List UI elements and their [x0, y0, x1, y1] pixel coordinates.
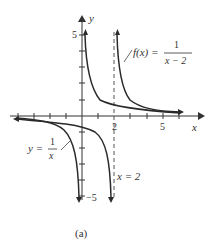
f-label-lhs: f(x) = [133, 46, 158, 59]
graph: 5 −5 2 5 x y f(x) = 1 x − 2 y = 1 x x = … [0, 0, 209, 240]
curve-y-left-branch [16, 118, 79, 197]
y-label-lhs: y = [27, 142, 43, 154]
x-tick-2: 2 [112, 121, 117, 132]
y-label-den: x [48, 150, 54, 161]
y-tick-minus5: −5 [86, 192, 97, 203]
x-tick-5: 5 [160, 121, 165, 132]
f-label-den: x − 2 [164, 55, 186, 66]
figure-caption: (a) [75, 227, 88, 240]
asymptote-label: x = 2 [116, 170, 141, 182]
y-axis-label: y [88, 12, 94, 24]
curve-f-left-branch [16, 119, 111, 197]
y-tick-5: 5 [72, 29, 77, 40]
y-label-num: 1 [50, 136, 55, 147]
x-axis-label: x [191, 121, 197, 133]
f-label-num: 1 [174, 39, 179, 50]
